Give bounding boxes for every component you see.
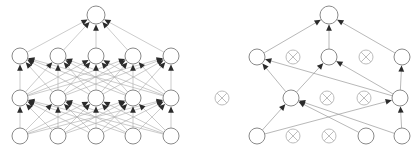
neural-network-diagram bbox=[0, 0, 420, 157]
neuron-unit-circle bbox=[392, 90, 408, 106]
connection-arrowhead bbox=[398, 106, 404, 112]
connection-arrowhead bbox=[168, 107, 174, 113]
neuron-unit-circle bbox=[50, 128, 66, 144]
connection-edge bbox=[104, 20, 164, 53]
connection-arrowhead bbox=[398, 65, 404, 71]
connection-edge bbox=[299, 101, 394, 134]
neuron-unit-circle bbox=[12, 128, 28, 144]
neuron-unit-circle bbox=[125, 90, 141, 106]
neuron-unit-circle bbox=[394, 128, 410, 144]
dropped-unit bbox=[320, 91, 334, 105]
dropped-unit bbox=[286, 50, 300, 64]
neuron-unit-circle bbox=[321, 49, 337, 65]
connection-arrowhead bbox=[262, 64, 268, 71]
dropped-unit bbox=[322, 129, 336, 143]
neuron-unit-circle bbox=[87, 6, 105, 24]
edges-group bbox=[20, 20, 402, 135]
connection-arrowhead bbox=[93, 65, 99, 71]
connection-arrowhead bbox=[385, 99, 392, 105]
neuron-unit-circle bbox=[88, 128, 104, 144]
connection-arrowhead bbox=[337, 20, 344, 26]
connection-arrowhead bbox=[55, 65, 61, 71]
neuron-unit-circle bbox=[163, 48, 179, 64]
neuron-unit-circle bbox=[125, 128, 141, 144]
connection-arrowhead bbox=[17, 65, 23, 71]
dropped-unit bbox=[215, 91, 229, 105]
neuron-unit-circle bbox=[163, 90, 179, 106]
neuron-unit-circle bbox=[283, 90, 299, 106]
neuron-unit-circle bbox=[249, 49, 265, 65]
neuron-unit-circle bbox=[12, 90, 28, 106]
connection-edge bbox=[336, 61, 393, 94]
dropped-unit bbox=[359, 50, 373, 64]
neuron-unit-circle bbox=[88, 90, 104, 106]
connection-arrowhead bbox=[17, 107, 23, 113]
neuron-unit-circle bbox=[394, 49, 410, 65]
connection-arrowhead bbox=[265, 58, 272, 64]
neuron-unit-circle bbox=[50, 90, 66, 106]
arrowheads-group bbox=[17, 20, 404, 113]
connection-arrowhead bbox=[336, 61, 343, 67]
neuron-unit-circle bbox=[88, 48, 104, 64]
connection-arrowhead bbox=[326, 25, 332, 31]
connection-edge bbox=[337, 20, 395, 53]
neuron-unit-circle bbox=[50, 48, 66, 64]
neuron-unit-circle bbox=[12, 48, 28, 64]
connection-arrowhead bbox=[130, 107, 136, 113]
connection-arrowhead bbox=[93, 25, 99, 31]
neuron-unit-circle bbox=[125, 48, 141, 64]
dropped-unit bbox=[357, 91, 371, 105]
connection-arrowhead bbox=[168, 65, 174, 71]
neuron-unit-circle bbox=[163, 128, 179, 144]
connection-arrowhead bbox=[130, 65, 136, 71]
connection-arrowhead bbox=[55, 107, 61, 113]
dropout-figure bbox=[0, 0, 420, 157]
dropped-unit bbox=[286, 129, 300, 143]
connection-arrowhead bbox=[314, 20, 321, 26]
neuron-unit-circle bbox=[358, 128, 374, 144]
connection-edge bbox=[27, 20, 88, 53]
neuron-unit-circle bbox=[320, 6, 338, 24]
connection-edge bbox=[264, 20, 321, 53]
connection-edge bbox=[299, 102, 359, 133]
neuron-unit-circle bbox=[249, 128, 265, 144]
